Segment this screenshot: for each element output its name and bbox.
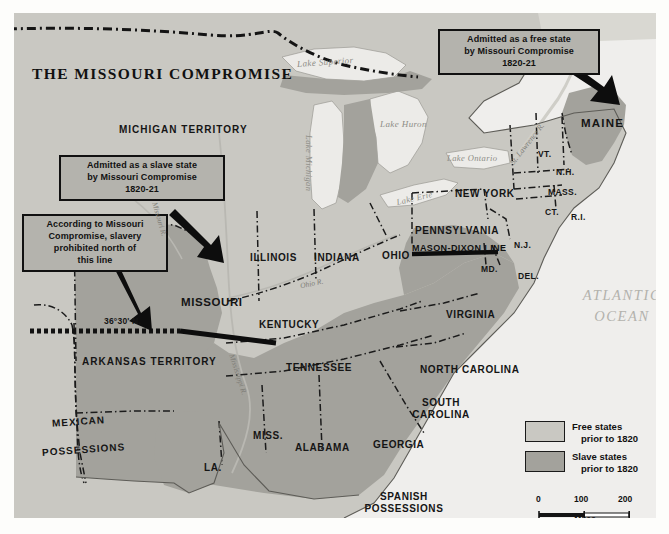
- state-label-mississippi: MISS.: [253, 431, 283, 442]
- state-label-maryland: MD.: [481, 265, 498, 274]
- state-label-kentucky: KENTUCKY: [259, 320, 319, 331]
- legend-swatch-free: [525, 421, 565, 442]
- state-label-pennsylvania: PENNSYLVANIA: [415, 226, 499, 237]
- scale-tick-1: 100: [574, 494, 588, 504]
- legend-slave-label: Slave states: [572, 451, 627, 462]
- legend-slave-sub: prior to 1820: [572, 463, 638, 475]
- state-label-ohio: OHIO: [382, 251, 410, 262]
- legend-row-free-states: Free states prior to 1820: [525, 421, 656, 445]
- callout-line-line2: Compromise, slavery: [29, 231, 161, 243]
- label-spanish-possessions-line1: SPANISH: [359, 492, 449, 503]
- map-plate: THE MISSOURI COMPROMISE Admitted as a fr…: [14, 13, 656, 518]
- callout-slave-state: Admitted as a slave state by Missouri Co…: [59, 155, 225, 201]
- scale-tick-0: 0: [536, 494, 541, 504]
- legend-free-sub: prior to 1820: [572, 433, 638, 445]
- callout-line-line1: According to Missouri: [29, 219, 161, 231]
- water-label-lake-huron: Lake Huron: [380, 119, 427, 129]
- water-label-atlantic-line1: ATLANTIC: [570, 286, 656, 304]
- callout-slave-state-line3: 1820-21: [66, 184, 218, 196]
- legend-swatch-slave: [525, 451, 565, 472]
- state-label-virginia: VIRGINIA: [446, 310, 495, 321]
- label-spanish-possessions-line2: POSSESSIONS: [359, 504, 449, 515]
- state-label-south-carolina-line1: SOUTH: [408, 398, 474, 409]
- state-label-alabama: ALABAMA: [295, 443, 350, 454]
- state-label-vermont: VT.: [538, 150, 551, 159]
- state-label-new-jersey: N.J.: [514, 241, 531, 250]
- state-label-delaware: DEL.: [518, 272, 539, 281]
- callout-line-line3: prohibited north of: [29, 243, 161, 255]
- state-label-michigan-territory: MICHIGAN TERRITORY: [119, 125, 248, 136]
- state-label-maine: MAINE: [581, 117, 624, 129]
- state-label-new-york: NEW YORK: [455, 189, 515, 200]
- map-legend: Free states prior to 1820 Slave states p…: [525, 421, 656, 481]
- map-title: THE MISSOURI COMPROMISE: [32, 65, 293, 83]
- state-label-indiana: INDIANA: [314, 253, 360, 264]
- state-label-tennessee: TENNESSEE: [286, 363, 352, 374]
- state-label-georgia: GEORGIA: [373, 440, 424, 451]
- state-label-south-carolina-line2: CAROLINA: [408, 410, 474, 421]
- callout-free-state-line2: by Missouri Compromise: [445, 46, 593, 58]
- region-louisiana: [154, 411, 224, 493]
- state-label-connecticut: CT.: [545, 208, 559, 217]
- missouri-compromise-map: THE MISSOURI COMPROMISE Admitted as a fr…: [0, 0, 669, 534]
- callout-slave-state-line2: by Missouri Compromise: [66, 172, 218, 184]
- state-label-north-carolina: NORTH CAROLINA: [420, 365, 520, 376]
- state-label-rhode-island: R.I.: [571, 213, 586, 222]
- parallel-label: 36°30' N.: [104, 317, 141, 326]
- callout-free-state: Admitted as a free state by Missouri Com…: [438, 29, 600, 75]
- callout-line-line4: this line: [29, 255, 161, 267]
- water-label-lake-ontario: Lake Ontario: [447, 153, 497, 163]
- state-label-louisiana: LA.: [204, 463, 222, 474]
- scale-bar-graphic: [536, 506, 648, 513]
- legend-free-label: Free states: [572, 421, 622, 432]
- callout-free-state-line1: Admitted as a free state: [445, 34, 593, 46]
- legend-text-slave: Slave states prior to 1820: [572, 451, 638, 475]
- map-scale-bar: 0 100 200 Miles: [536, 494, 648, 518]
- water-label-atlantic-line2: OCEAN: [570, 307, 656, 325]
- state-label-massachusetts: MASS.: [548, 188, 577, 197]
- callout-slave-state-line1: Admitted as a slave state: [66, 160, 218, 172]
- state-label-missouri: MISSOURI: [181, 296, 243, 308]
- callout-free-state-line3: 1820-21: [445, 58, 593, 70]
- state-label-new-hampshire: N.H.: [556, 168, 575, 177]
- mason-dixon-label: MASON-DIXON LINE: [412, 244, 506, 254]
- legend-text-free: Free states prior to 1820: [572, 421, 638, 445]
- legend-row-slave-states: Slave states prior to 1820: [525, 451, 656, 475]
- callout-compromise-line: According to Missouri Compromise, slaver…: [22, 214, 168, 272]
- scale-tick-2: 200: [618, 494, 632, 504]
- state-label-illinois: ILLINOIS: [250, 253, 297, 264]
- scale-tick-labels: 0 100 200: [536, 494, 648, 505]
- water-label-lake-michigan: Lake Michigan: [304, 135, 314, 191]
- state-label-arkansas-territory: ARKANSAS TERRITORY: [82, 357, 217, 368]
